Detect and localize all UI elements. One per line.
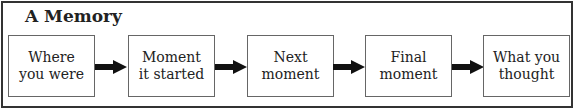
arrow-right-icon [215, 60, 247, 74]
diagram-title: A Memory [25, 6, 122, 26]
step-where-you-were: Where you were [8, 35, 95, 97]
arrow-right-icon [333, 60, 365, 74]
step-what-you-thought: What you thought [483, 35, 570, 97]
arrow-right-icon [452, 60, 484, 74]
arrow-right-icon [95, 60, 127, 74]
step-final-moment: Final moment [365, 35, 452, 97]
step-next-moment: Next moment [247, 35, 334, 97]
step-moment-it-started: Moment it started [128, 35, 215, 97]
